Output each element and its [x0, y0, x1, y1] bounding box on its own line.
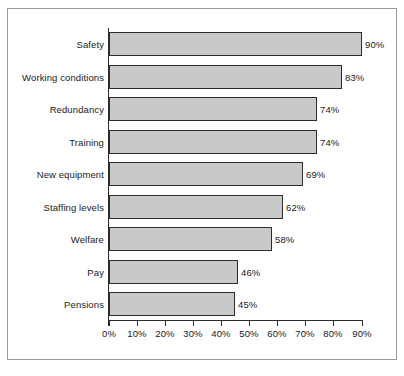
category-label: Pay: [87, 266, 104, 277]
bar-working-conditions: [109, 65, 342, 89]
x-tick-label: 70%: [295, 328, 314, 339]
plot-area: Safety 90% Working conditions 83% Redund…: [0, 0, 404, 376]
bar-staffing-levels: [109, 195, 283, 219]
x-tick: [221, 321, 222, 326]
bar-pensions: [109, 292, 235, 316]
x-tick-label: 60%: [267, 328, 286, 339]
x-tick-label: 0%: [102, 328, 116, 339]
bar-value-label: 58%: [275, 234, 294, 245]
bar-value-label: 62%: [286, 201, 305, 212]
bar-value-label: 83%: [345, 71, 364, 82]
x-tick-label: 10%: [127, 328, 146, 339]
bar-row: New equipment 69%: [0, 158, 404, 191]
bar-value-label: 69%: [306, 169, 325, 180]
bar-pay: [109, 260, 238, 284]
bar-value-label: 74%: [320, 104, 339, 115]
bar-row: Welfare 58%: [0, 223, 404, 256]
category-label: Training: [69, 136, 104, 147]
bar-training: [109, 130, 317, 154]
bar-row: Pensions 45%: [0, 288, 404, 321]
bar-value-label: 46%: [241, 266, 260, 277]
category-label: Safety: [76, 39, 104, 50]
category-label: New equipment: [37, 169, 104, 180]
x-tick: [362, 321, 363, 326]
bar-row: Pay 46%: [0, 256, 404, 289]
x-tick: [193, 321, 194, 326]
bar-value-label: 74%: [320, 136, 339, 147]
bar-value-label: 90%: [365, 39, 384, 50]
x-tick-label: 40%: [211, 328, 230, 339]
bar-row: Safety 90%: [0, 28, 404, 61]
x-tick: [249, 321, 250, 326]
bar-new-equipment: [109, 162, 303, 186]
x-tick: [108, 321, 109, 326]
bar-welfare: [109, 227, 272, 251]
x-tick: [277, 321, 278, 326]
bar-redundancy: [109, 97, 317, 121]
x-tick: [305, 321, 306, 326]
bar-value-label: 45%: [238, 299, 257, 310]
bar-row: Staffing levels 62%: [0, 191, 404, 224]
category-label: Working conditions: [22, 71, 104, 82]
x-tick-label: 50%: [239, 328, 258, 339]
x-axis-line: [108, 320, 363, 321]
x-tick-label: 30%: [183, 328, 202, 339]
x-tick-label: 20%: [155, 328, 174, 339]
x-tick-label: 80%: [323, 328, 342, 339]
category-label: Pensions: [64, 299, 104, 310]
x-tick: [165, 321, 166, 326]
bar-row: Training 74%: [0, 126, 404, 159]
bar-row: Redundancy 74%: [0, 93, 404, 126]
x-tick-label: 90%: [352, 328, 371, 339]
bar-safety: [109, 32, 362, 56]
x-tick: [333, 321, 334, 326]
category-label: Redundancy: [50, 104, 104, 115]
x-tick: [137, 321, 138, 326]
category-label: Welfare: [71, 234, 104, 245]
y-axis-line: [108, 28, 109, 321]
chart-figure: Safety 90% Working conditions 83% Redund…: [0, 0, 404, 376]
category-label: Staffing levels: [44, 201, 104, 212]
bar-row: Working conditions 83%: [0, 61, 404, 94]
